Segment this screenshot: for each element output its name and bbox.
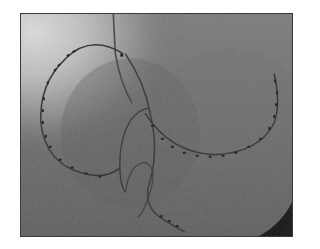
xray-scene — [21, 14, 292, 236]
fluoroscopy-image — [20, 13, 293, 237]
noise-overlay — [21, 14, 292, 236]
